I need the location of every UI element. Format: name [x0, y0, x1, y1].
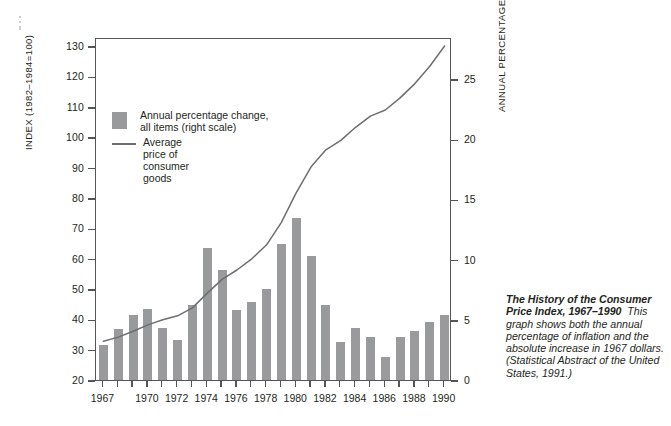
right-tick-20	[451, 140, 458, 141]
left-tick-100	[88, 137, 95, 138]
x-tick-1979	[280, 381, 281, 387]
left-tick-label-80: 80	[44, 192, 84, 204]
left-tick-20	[88, 380, 95, 381]
right-tick-10	[451, 260, 458, 261]
left-tick-label-110: 110	[44, 101, 84, 113]
left-tick-120	[88, 77, 95, 78]
x-tick-1981	[309, 381, 310, 387]
right-tick-label-15: 15	[464, 193, 494, 205]
x-tick-1971	[161, 381, 162, 387]
left-tick-40	[88, 320, 95, 321]
figure-caption: The History of the Consumer Price Index,…	[506, 293, 666, 379]
left-tick-label-90: 90	[44, 162, 84, 174]
x-tick-1982	[324, 381, 325, 387]
left-tick-70	[88, 229, 95, 230]
right-tick-0	[451, 380, 458, 381]
right-tick-label-20: 20	[464, 133, 494, 145]
right-tick-5	[451, 320, 458, 321]
left-tick-130	[88, 46, 95, 47]
left-tick-label-130: 130	[44, 40, 84, 52]
x-tick-1986	[384, 381, 385, 387]
right-tick-label-10: 10	[464, 254, 494, 266]
x-axis: 1967197019721974197619781980198219841986…	[95, 381, 451, 426]
left-tick-label-20: 20	[44, 374, 84, 386]
left-tick-30	[88, 350, 95, 351]
legend-bar-swatch	[112, 112, 127, 129]
plot-area	[95, 38, 451, 381]
left-tick-50	[88, 289, 95, 290]
x-tick-label-1967: 1967	[82, 392, 122, 404]
right-tick-label-25: 25	[464, 73, 494, 85]
left-tick-60	[88, 259, 95, 260]
figure-consumer-price-index: INDEX (1982–1984=100) 203040506070809010…	[0, 0, 671, 426]
left-tick-80	[88, 198, 95, 199]
right-tick-15	[451, 200, 458, 201]
x-tick-1978	[265, 381, 266, 387]
left-tick-label-50: 50	[44, 283, 84, 295]
x-tick-label-1990: 1990	[424, 392, 464, 404]
legend-line-swatch	[112, 143, 136, 145]
left-tick-label-60: 60	[44, 253, 84, 265]
left-tick-label-70: 70	[44, 222, 84, 234]
left-tick-label-100: 100	[44, 131, 84, 143]
left-tick-label-30: 30	[44, 344, 84, 356]
left-tick-90	[88, 168, 95, 169]
x-tick-1974	[206, 381, 207, 387]
x-tick-1984	[354, 381, 355, 387]
x-tick-1973	[191, 381, 192, 387]
x-tick-1980	[295, 381, 296, 387]
left-tick-label-120: 120	[44, 70, 84, 82]
right-tick-label-5: 5	[464, 314, 494, 326]
left-tick-label-40: 40	[44, 313, 84, 325]
legend-bar-label: Annual percentage change, all items (rig…	[140, 110, 268, 133]
x-tick-1976	[235, 381, 236, 387]
right-tick-25	[451, 79, 458, 80]
left-axis-title: INDEX (1982–1984=100)	[23, 35, 34, 150]
x-tick-1987	[398, 381, 399, 387]
line-series	[96, 39, 452, 382]
x-tick-1985	[369, 381, 370, 387]
x-tick-1975	[220, 381, 221, 387]
x-tick-1969	[131, 381, 132, 387]
x-tick-1988	[413, 381, 414, 387]
right-axis-title: ANNUAL PERCENTAGE CHANGE	[496, 0, 507, 112]
left-axis: INDEX (1982–1984=100) 203040506070809010…	[0, 0, 95, 426]
x-tick-1989	[428, 381, 429, 387]
x-tick-1977	[250, 381, 251, 387]
left-tick-110	[88, 107, 95, 108]
x-tick-1983	[339, 381, 340, 387]
x-tick-1970	[146, 381, 147, 387]
x-tick-1990	[443, 381, 444, 387]
right-tick-label-0: 0	[464, 374, 494, 386]
legend-line-label: Average price of consumer goods	[143, 136, 189, 184]
x-tick-1967	[102, 381, 103, 387]
x-tick-1972	[176, 381, 177, 387]
x-tick-1968	[117, 381, 118, 387]
